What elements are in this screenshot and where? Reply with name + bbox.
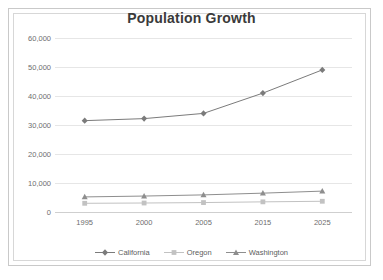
- gridline: [55, 212, 352, 213]
- y-axis-tick-label: 60,000: [7, 34, 51, 43]
- data-point-marker: [201, 200, 206, 205]
- series-california: [82, 67, 326, 124]
- data-point-marker: [82, 201, 87, 206]
- y-axis-tick-label: 20,000: [7, 150, 51, 159]
- data-point-marker: [320, 199, 325, 204]
- series-oregon: [82, 199, 324, 206]
- legend-item-oregon[interactable]: Oregon: [164, 248, 212, 257]
- x-axis-tick-label: 1995: [76, 218, 93, 227]
- square-marker-icon: [164, 248, 184, 257]
- data-point-marker: [102, 249, 108, 255]
- y-axis-tick-label: 30,000: [7, 121, 51, 130]
- triangle-marker-icon: [226, 248, 246, 257]
- series-layer: [55, 38, 352, 212]
- x-axis-tick-label: 2025: [314, 218, 331, 227]
- y-axis-tick-label: 50,000: [7, 63, 51, 72]
- y-axis-tick-label: 10,000: [7, 179, 51, 188]
- legend-item-washington[interactable]: Washington: [226, 248, 288, 257]
- legend-label: Oregon: [187, 248, 212, 257]
- x-axis-tick-label: 2005: [195, 218, 212, 227]
- data-point-marker: [82, 117, 88, 123]
- data-point-marker: [201, 110, 207, 116]
- chart-legend: CaliforniaOregonWashington: [0, 248, 383, 257]
- chart-title: Population Growth: [0, 10, 383, 26]
- data-point-marker: [319, 67, 325, 73]
- x-axis-tick-label: 2000: [136, 218, 153, 227]
- data-point-marker: [261, 199, 266, 204]
- diamond-marker-icon: [95, 248, 115, 257]
- y-axis-tick-label: 0: [7, 208, 51, 217]
- x-axis-tick-label: 2015: [255, 218, 272, 227]
- legend-item-california[interactable]: California: [95, 248, 150, 257]
- y-axis-tick-label: 40,000: [7, 92, 51, 101]
- series-washington: [82, 188, 326, 199]
- x-axis: 19952000200520152025: [55, 218, 352, 232]
- legend-label: California: [118, 248, 150, 257]
- data-point-marker: [171, 250, 176, 255]
- data-point-marker: [260, 90, 266, 96]
- data-point-marker: [142, 201, 147, 206]
- legend-label: Washington: [249, 248, 288, 257]
- data-point-marker: [141, 115, 147, 121]
